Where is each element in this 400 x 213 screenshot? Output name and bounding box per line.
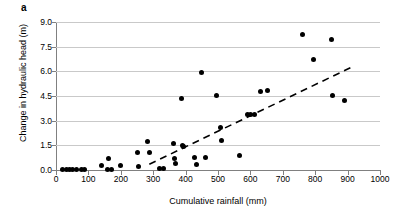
chart-figure: a Change in hydraulic head (m) Cumulativ… bbox=[0, 0, 400, 213]
x-tick-mark bbox=[153, 171, 154, 175]
plot-area bbox=[56, 22, 380, 170]
x-tick-mark bbox=[56, 171, 57, 175]
x-tick-mark bbox=[380, 171, 381, 175]
x-tick-mark bbox=[348, 171, 349, 175]
x-tick-mark bbox=[315, 171, 316, 175]
x-tick-mark bbox=[186, 171, 187, 175]
x-tick-mark bbox=[88, 171, 89, 175]
trendline bbox=[56, 22, 380, 170]
x-tick-mark bbox=[283, 171, 284, 175]
trendline-segment bbox=[149, 67, 351, 164]
x-tick-mark bbox=[218, 171, 219, 175]
x-tick-mark bbox=[121, 171, 122, 175]
x-tick-mark bbox=[250, 171, 251, 175]
